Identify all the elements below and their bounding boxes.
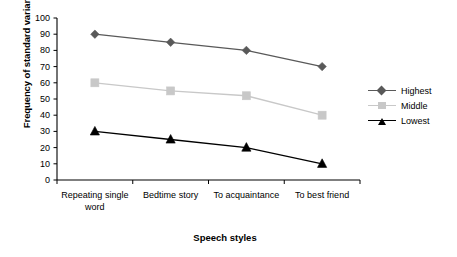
legend-key [368, 99, 396, 113]
data-point-square [242, 92, 250, 100]
x-tick-label: Repeating single word [57, 190, 133, 213]
legend-item[interactable]: Highest [368, 83, 456, 98]
plot-area [0, 0, 457, 257]
x-axis-title: Speech styles [55, 232, 395, 243]
legend-item[interactable]: Lowest [368, 113, 456, 128]
data-point-diamond [242, 46, 250, 54]
data-point-diamond [166, 38, 174, 46]
series-line [95, 131, 322, 163]
data-point-square [167, 87, 175, 95]
series-line [95, 83, 322, 115]
legend-label: Highest [396, 86, 432, 96]
legend-label: Lowest [396, 116, 430, 126]
x-tick-label: To best friend [284, 190, 360, 202]
series-lowest [90, 126, 326, 167]
series-line [95, 34, 322, 66]
legend-key [368, 84, 396, 98]
line-chart: Frequency of standard variant 0102030405… [0, 0, 457, 257]
series-highest [91, 30, 327, 71]
chart-legend: HighestMiddleLowest [368, 83, 456, 128]
x-tick-label: To acquaintance [209, 190, 285, 202]
series-middle [91, 79, 326, 119]
legend-item[interactable]: Middle [368, 98, 456, 113]
legend-marker-diamond [377, 85, 387, 95]
data-point-diamond [91, 30, 99, 38]
x-tick-label: Bedtime story [133, 190, 209, 202]
data-point-square [318, 111, 326, 119]
legend-label: Middle [396, 101, 428, 111]
legend-marker-triangle [378, 118, 386, 125]
legend-key [368, 114, 396, 128]
data-point-diamond [318, 62, 326, 70]
data-point-triangle [90, 126, 99, 135]
legend-marker-square [378, 102, 386, 110]
data-point-square [91, 79, 99, 87]
